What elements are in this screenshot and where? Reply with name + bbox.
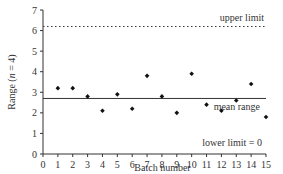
data-point (130, 106, 135, 111)
x-tick-label: 11 (202, 159, 212, 170)
y-axis-title: Range (n = 4) (6, 54, 18, 109)
data-point (115, 92, 120, 97)
x-tick-label: 13 (231, 159, 241, 170)
x-tick-label: 3 (85, 159, 90, 170)
x-tick-label: 0 (41, 159, 46, 170)
lower-limit-label: lower limit = 0 (202, 137, 262, 148)
y-tick-label: 6 (32, 25, 37, 36)
y-tick-label: 0 (32, 149, 37, 160)
data-point (249, 82, 254, 87)
x-tick-label: 4 (100, 159, 105, 170)
data-point (70, 86, 75, 91)
y-tick-label: 4 (32, 66, 37, 77)
x-tick-label: 1 (55, 159, 60, 170)
x-tick-label: 2 (70, 159, 75, 170)
upper-limit-label: upper limit (220, 12, 264, 23)
y-tick-label: 2 (32, 107, 37, 118)
data-point (56, 86, 61, 91)
x-tick-label: 14 (246, 159, 256, 170)
x-axis-title: Batch number (134, 162, 191, 173)
y-tick-label: 7 (32, 5, 37, 16)
data-point (264, 115, 269, 120)
y-tick-label: 5 (32, 46, 37, 57)
control-chart: 012345670123456789101112131415 upper lim… (0, 0, 283, 174)
x-tick-label: 12 (216, 159, 226, 170)
data-point (204, 102, 209, 107)
y-tick-label: 3 (32, 87, 37, 98)
reference-lines: upper limitmean rangelower limit = 0 (43, 12, 266, 148)
data-point (100, 109, 105, 114)
y-tick-label: 1 (32, 128, 37, 139)
x-tick-label: 5 (115, 159, 120, 170)
data-point (175, 111, 180, 116)
data-point (145, 74, 150, 79)
data-point (189, 71, 194, 76)
x-tick-label: 15 (261, 159, 271, 170)
